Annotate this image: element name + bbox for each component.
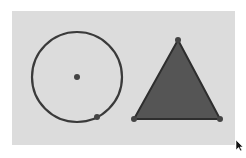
triangle-vertex-top[interactable] [175, 37, 181, 43]
circle-center-point[interactable] [74, 74, 80, 80]
circle-radius-point[interactable] [94, 114, 100, 120]
drawing-area[interactable] [0, 0, 246, 158]
triangle-vertex-bottom-right[interactable] [217, 116, 223, 122]
mouse-cursor-icon [236, 140, 243, 151]
canvas[interactable] [12, 11, 235, 145]
triangle-vertex-bottom-left[interactable] [131, 116, 137, 122]
